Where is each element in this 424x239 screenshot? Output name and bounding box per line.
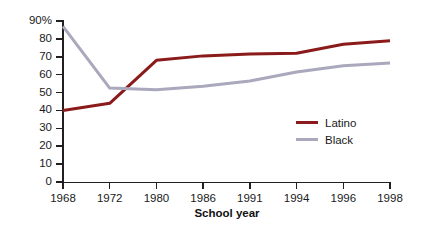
- legend-item-latino: Latino: [296, 114, 406, 131]
- series-line-latino: [63, 41, 390, 111]
- legend-swatch-latino: [296, 121, 318, 124]
- legend-item-black: Black: [296, 131, 406, 148]
- legend-label-black: Black: [325, 134, 353, 146]
- chart-legend: Latino Black: [296, 114, 406, 148]
- line-chart: 0102030405060708090% 1968197219801986199…: [0, 0, 424, 239]
- legend-label-latino: Latino: [325, 117, 356, 129]
- x-axis-title: School year: [62, 207, 392, 220]
- series-line-black: [63, 26, 390, 90]
- legend-swatch-black: [296, 138, 318, 141]
